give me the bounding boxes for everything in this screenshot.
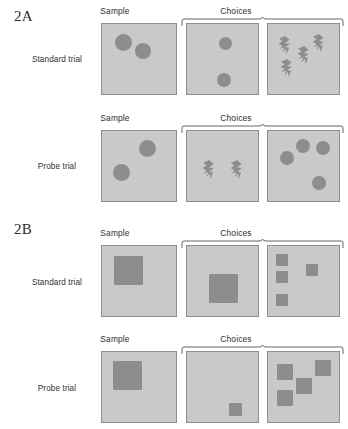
square-stimulus	[209, 274, 238, 303]
lightning-bolt-icon	[230, 160, 243, 183]
circle-stimulus	[219, 37, 232, 50]
stimulus-panel-choice-alternative[interactable]	[186, 351, 259, 423]
square-stimulus	[296, 378, 312, 394]
lightning-bolt-icon	[202, 160, 215, 183]
square-stimulus	[114, 256, 143, 285]
column-header-choices: Choices	[206, 6, 266, 16]
stimulus-panel-sample[interactable]	[101, 130, 177, 202]
column-header-choices: Choices	[206, 113, 266, 123]
section-tag-2b: 2B	[14, 221, 32, 238]
circle-stimulus	[296, 139, 310, 153]
row-label: Probe trial	[20, 384, 94, 393]
lightning-bolt-icon	[312, 34, 325, 56]
stimulus-panel-choice-matching[interactable]	[186, 23, 259, 95]
stimulus-panel-sample[interactable]	[101, 245, 177, 317]
circle-stimulus	[217, 73, 231, 87]
square-stimulus	[276, 294, 288, 306]
stimulus-panel-choice-alternative[interactable]	[267, 245, 340, 317]
square-stimulus	[276, 254, 288, 266]
square-stimulus	[229, 403, 242, 416]
circle-stimulus	[312, 176, 326, 190]
row-label: Probe trial	[20, 162, 94, 171]
circle-stimulus	[115, 34, 132, 51]
column-header-sample: Sample	[85, 334, 145, 344]
circle-stimulus	[135, 43, 151, 59]
stimulus-panel-choice-alternative[interactable]	[186, 130, 259, 202]
figure-root: 2AStandard trialSampleChoicesProbe trial…	[0, 0, 348, 429]
circle-stimulus	[139, 140, 156, 157]
stimulus-panel-choice-matching[interactable]	[267, 130, 340, 202]
lightning-bolt-icon	[280, 59, 293, 81]
circle-stimulus	[113, 164, 130, 181]
square-stimulus	[277, 364, 293, 380]
stimulus-panel-choice-matching[interactable]	[186, 245, 259, 317]
column-header-sample: Sample	[85, 113, 145, 123]
square-stimulus	[277, 390, 293, 406]
lightning-bolt-icon	[297, 46, 310, 68]
square-stimulus	[276, 271, 288, 283]
stimulus-panel-choice-alternative[interactable]	[267, 23, 340, 95]
square-stimulus	[113, 361, 142, 390]
circle-stimulus	[316, 141, 330, 155]
stimulus-panel-sample[interactable]	[101, 23, 177, 95]
row-label: Standard trial	[20, 55, 94, 64]
column-header-sample: Sample	[85, 228, 145, 238]
column-header-choices: Choices	[206, 334, 266, 344]
section-tag-2a: 2A	[14, 8, 33, 25]
circle-stimulus	[280, 151, 294, 165]
stimulus-panel-choice-matching[interactable]	[267, 351, 340, 423]
square-stimulus	[306, 264, 318, 276]
stimulus-panel-sample[interactable]	[101, 351, 177, 423]
square-stimulus	[315, 360, 331, 376]
column-header-sample: Sample	[85, 6, 145, 16]
row-label: Standard trial	[20, 278, 94, 287]
lightning-bolt-icon	[278, 36, 291, 58]
column-header-choices: Choices	[206, 228, 266, 238]
